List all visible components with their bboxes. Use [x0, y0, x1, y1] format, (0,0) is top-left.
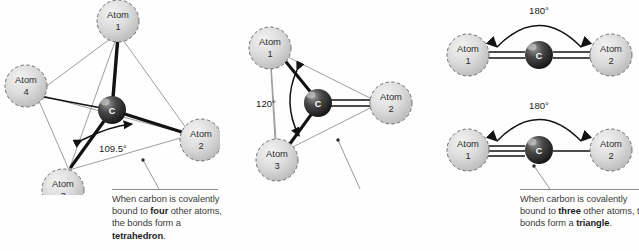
atom-number-label: 2	[608, 55, 613, 66]
caption-text-part3: .	[163, 231, 166, 241]
atom-number-label: 3	[60, 190, 65, 195]
caption-rule	[112, 189, 218, 190]
atom-number-label: 2	[198, 140, 203, 151]
atom-sphere-4: Atom 4	[5, 65, 47, 107]
triangle-diagram: C Atom 1 Atom 2 Atom 3 120°	[220, 0, 440, 195]
tetrahedron-diagram: C Atom 1 Atom 4 Atom 2 Atom 3	[0, 0, 220, 195]
caption-bold-count: four	[150, 206, 168, 216]
atom-sphere-top-2: Atom 2	[590, 34, 632, 76]
caption-leader-dot	[141, 158, 144, 161]
caption-bold-shape: tetrahedron	[112, 231, 163, 241]
carbon-label: C	[536, 146, 543, 156]
atom-name-label: Atom	[107, 9, 129, 20]
bond-angle-label-top: 180°	[529, 5, 549, 16]
carbon-atom-bottom: C	[525, 136, 553, 164]
bond-angle-label: 120°	[256, 98, 276, 109]
caption-leader-line	[143, 160, 159, 189]
bond-angle-label: 109.5°	[99, 143, 127, 154]
atom-sphere-2: Atom 2	[370, 82, 412, 124]
atom-number-label: 1	[115, 21, 120, 32]
atom-sphere-2: Atom 2	[180, 119, 220, 161]
panel-line: C Atom 1 Atom 2 180°	[440, 0, 639, 251]
caption-tetrahedron: When carbon is covalently bound to four …	[112, 193, 224, 242]
atom-name-label: Atom	[380, 91, 402, 102]
atom-number-label: 1	[267, 48, 272, 59]
atom-number-label: 2	[608, 150, 613, 161]
panel-triangle: C Atom 1 Atom 2 Atom 3 120°	[220, 0, 440, 251]
caption-leader-dot	[532, 164, 535, 167]
structure-top: C Atom 1 Atom 2 180°	[447, 5, 632, 76]
atom-name-label: Atom	[457, 43, 479, 54]
panel-tetrahedron: C Atom 1 Atom 4 Atom 2 Atom 3	[0, 0, 220, 251]
atom-name-label: Atom	[15, 74, 37, 85]
atom-name-label: Atom	[457, 138, 479, 149]
atom-sphere-bottom-2: Atom 2	[590, 129, 632, 171]
carbon-label: C	[109, 106, 116, 116]
carbon-atom-top: C	[525, 41, 553, 69]
carbon-atom: C	[304, 89, 332, 117]
carbon-label: C	[315, 99, 322, 109]
structure-bottom: C Atom 1 Atom 2 180°	[447, 100, 632, 189]
atom-sphere-top-1: Atom 1	[447, 34, 489, 76]
caption-leader-dot	[336, 138, 339, 141]
atom-sphere-3: Atom 3	[256, 139, 298, 181]
caption-leader-line	[338, 140, 360, 189]
bond-angle-arc	[290, 70, 299, 136]
atom-number-label: 1	[465, 55, 470, 66]
carbon-bonding-figure: C Atom 1 Atom 4 Atom 2 Atom 3	[0, 0, 639, 251]
atom-number-label: 2	[388, 103, 393, 114]
carbon-atom: C	[98, 96, 126, 124]
atom-name-label: Atom	[600, 138, 622, 149]
atom-number-label: 4	[23, 86, 28, 97]
bond-angle-label-bottom: 180°	[529, 100, 549, 111]
atom-name-label: Atom	[266, 148, 288, 159]
carbon-label: C	[536, 51, 543, 61]
atom-name-label: Atom	[259, 36, 281, 47]
bond-angle-arc	[82, 124, 132, 140]
straight-line-diagram: C Atom 1 Atom 2 180°	[440, 0, 639, 195]
atom-name-label: Atom	[190, 128, 212, 139]
atom-number-label: 3	[274, 160, 279, 171]
atom-sphere-3: Atom 3	[42, 169, 84, 195]
atom-sphere-1: Atom 1	[249, 27, 291, 69]
atom-number-label: 1	[465, 150, 470, 161]
atom-sphere-bottom-1: Atom 1	[447, 129, 489, 171]
atom-sphere-1: Atom 1	[97, 0, 139, 42]
atom-name-label: Atom	[52, 178, 74, 189]
atom-name-label: Atom	[600, 43, 622, 54]
caption-leader-line	[534, 166, 550, 189]
